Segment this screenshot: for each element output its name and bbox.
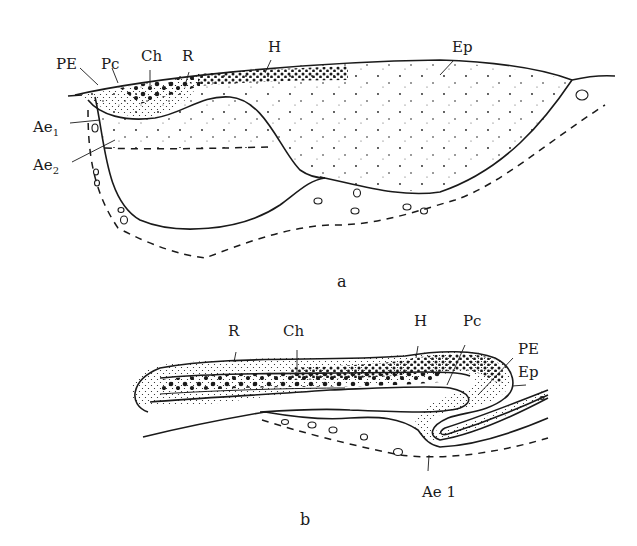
- label-ch-b: Ch: [283, 322, 304, 340]
- panel-a: PE Pc Ch R H Ep Ae1 Ae2 a: [32, 38, 615, 291]
- cell: [394, 449, 403, 456]
- cell: [118, 208, 124, 213]
- label-pe-a: PE: [56, 55, 77, 73]
- label-ch-a: Ch: [141, 47, 162, 65]
- label-ae1-a: Ae1: [32, 118, 59, 138]
- left-edge-a: [68, 95, 82, 96]
- cell: [314, 198, 322, 204]
- label-ep-a: Ep: [452, 38, 473, 56]
- cell: [282, 420, 289, 425]
- cell: [329, 427, 337, 433]
- cell: [308, 422, 316, 428]
- cell: [421, 208, 428, 214]
- label-r-a: R: [182, 47, 194, 65]
- label-pc-a: Pc: [101, 55, 120, 73]
- panel-b: R Ch H Pc PE Ep Ae 1 b: [131, 312, 548, 529]
- label-pe-b: PE: [518, 340, 539, 358]
- caption-b: b: [300, 510, 310, 529]
- caption-a: a: [337, 272, 347, 291]
- cell: [403, 204, 411, 210]
- leader-ep-b: [512, 385, 526, 386]
- leader-pe-a: [80, 68, 98, 85]
- cell: [351, 208, 359, 214]
- cell: [354, 189, 361, 197]
- label-ae1-b: Ae 1: [421, 483, 456, 501]
- outer-dash-b: [262, 420, 548, 457]
- cell: [92, 124, 98, 132]
- cell: [94, 169, 99, 175]
- label-ep-b: Ep: [518, 363, 539, 381]
- label-pc-b: Pc: [463, 312, 482, 330]
- label-h-b: H: [414, 312, 427, 330]
- cell: [361, 434, 368, 440]
- leader-ae1-a: [70, 120, 100, 123]
- anatomical-figure: PE Pc Ch R H Ep Ae1 Ae2 a: [0, 0, 637, 546]
- cell: [121, 216, 128, 224]
- label-h-a: H: [268, 38, 281, 56]
- leader-ae2-a: [72, 140, 115, 162]
- label-ae2-a: Ae2: [32, 156, 59, 176]
- cell: [95, 180, 100, 186]
- cell: [576, 90, 588, 100]
- label-r-b: R: [228, 322, 240, 340]
